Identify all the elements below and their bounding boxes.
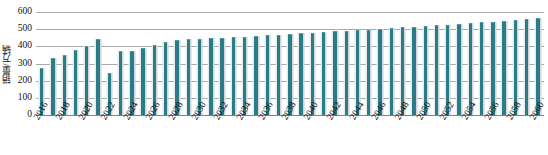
bar-slot bbox=[205, 12, 216, 115]
bar-slot bbox=[408, 12, 419, 115]
x-slot bbox=[341, 116, 352, 155]
x-slot bbox=[138, 116, 149, 155]
bar bbox=[367, 30, 370, 115]
bar-slot bbox=[420, 12, 431, 115]
bar bbox=[164, 42, 167, 115]
x-slot bbox=[70, 116, 81, 155]
x-slot bbox=[499, 116, 510, 155]
x-slot bbox=[295, 116, 306, 155]
bar bbox=[390, 28, 393, 115]
bar-slot bbox=[149, 12, 160, 115]
x-axis-labels: 2016201820202022202420262028203020322034… bbox=[36, 116, 544, 155]
x-slot: 2048 bbox=[397, 116, 408, 155]
bar bbox=[525, 19, 528, 115]
bar bbox=[51, 58, 54, 115]
bar bbox=[119, 51, 122, 115]
bar bbox=[412, 27, 415, 115]
x-slot bbox=[47, 116, 58, 155]
bar-slot bbox=[171, 12, 182, 115]
x-slot bbox=[453, 116, 464, 155]
x-slot bbox=[205, 116, 216, 155]
bar-slot bbox=[217, 12, 228, 115]
bar bbox=[254, 36, 257, 115]
bar bbox=[480, 22, 483, 115]
x-slot bbox=[408, 116, 419, 155]
y-tick-label: 300 bbox=[18, 59, 32, 69]
x-slot bbox=[363, 116, 374, 155]
bar-slot bbox=[160, 12, 171, 115]
bar bbox=[322, 32, 325, 115]
bar-slot bbox=[228, 12, 239, 115]
y-axis-title: 销量/万辆 bbox=[0, 28, 13, 102]
x-slot: 2046 bbox=[374, 116, 385, 155]
bar bbox=[277, 35, 280, 115]
bar-slot bbox=[499, 12, 510, 115]
bar-slot bbox=[386, 12, 397, 115]
x-slot: 2018 bbox=[59, 116, 70, 155]
y-tick-label: 500 bbox=[18, 24, 32, 34]
y-tick-label: 400 bbox=[18, 42, 32, 52]
x-slot: 2016 bbox=[36, 116, 47, 155]
y-tick-label: 200 bbox=[18, 76, 32, 86]
x-slot: 2060 bbox=[532, 116, 543, 155]
bar-slot bbox=[374, 12, 385, 115]
x-slot: 2042 bbox=[329, 116, 340, 155]
y-tick-label: 600 bbox=[18, 7, 32, 17]
bar bbox=[457, 24, 460, 115]
bar bbox=[435, 25, 438, 115]
x-slot bbox=[250, 116, 261, 155]
x-slot bbox=[92, 116, 103, 155]
bar-slot bbox=[341, 12, 352, 115]
bar-slot bbox=[115, 12, 126, 115]
bar-slot bbox=[510, 12, 521, 115]
x-slot: 2050 bbox=[420, 116, 431, 155]
bar bbox=[345, 31, 348, 115]
x-slot bbox=[115, 116, 126, 155]
bar bbox=[209, 38, 212, 115]
bar-slot bbox=[318, 12, 329, 115]
y-tick-label: 100 bbox=[18, 93, 32, 103]
x-slot: 2056 bbox=[487, 116, 498, 155]
bar-slot bbox=[70, 12, 81, 115]
bar-slot bbox=[521, 12, 532, 115]
bar-slot bbox=[104, 12, 115, 115]
bar-slot bbox=[92, 12, 103, 115]
x-slot: 2034 bbox=[239, 116, 250, 155]
x-slot: 2044 bbox=[352, 116, 363, 155]
bar bbox=[232, 37, 235, 115]
x-slot bbox=[160, 116, 171, 155]
x-slot: 2030 bbox=[194, 116, 205, 155]
bar-slot bbox=[307, 12, 318, 115]
x-slot bbox=[521, 116, 532, 155]
x-slot: 2054 bbox=[465, 116, 476, 155]
bar-slot bbox=[363, 12, 374, 115]
bar bbox=[96, 39, 99, 115]
bar-slot bbox=[273, 12, 284, 115]
x-slot bbox=[183, 116, 194, 155]
bar-slot bbox=[138, 12, 149, 115]
bar-slot bbox=[431, 12, 442, 115]
bar bbox=[299, 33, 302, 115]
x-slot: 2038 bbox=[284, 116, 295, 155]
bar-slot bbox=[183, 12, 194, 115]
bar-slot bbox=[250, 12, 261, 115]
x-slot: 2036 bbox=[262, 116, 273, 155]
x-slot: 2024 bbox=[126, 116, 137, 155]
x-slot bbox=[431, 116, 442, 155]
bar-slot bbox=[453, 12, 464, 115]
x-slot: 2032 bbox=[217, 116, 228, 155]
bar bbox=[141, 48, 144, 115]
bar-slot bbox=[295, 12, 306, 115]
bar bbox=[187, 39, 190, 115]
x-slot bbox=[273, 116, 284, 155]
x-slot: 2058 bbox=[510, 116, 521, 155]
x-slot: 2040 bbox=[307, 116, 318, 155]
x-slot bbox=[386, 116, 397, 155]
bar-slot bbox=[47, 12, 58, 115]
bar-slot bbox=[476, 12, 487, 115]
sales-volume-bar-chart: 销量/万辆 6005004003002001000 20162018202020… bbox=[0, 0, 548, 155]
x-slot: 2052 bbox=[442, 116, 453, 155]
x-slot: 2028 bbox=[171, 116, 182, 155]
x-slot: 2022 bbox=[104, 116, 115, 155]
x-slot bbox=[318, 116, 329, 155]
